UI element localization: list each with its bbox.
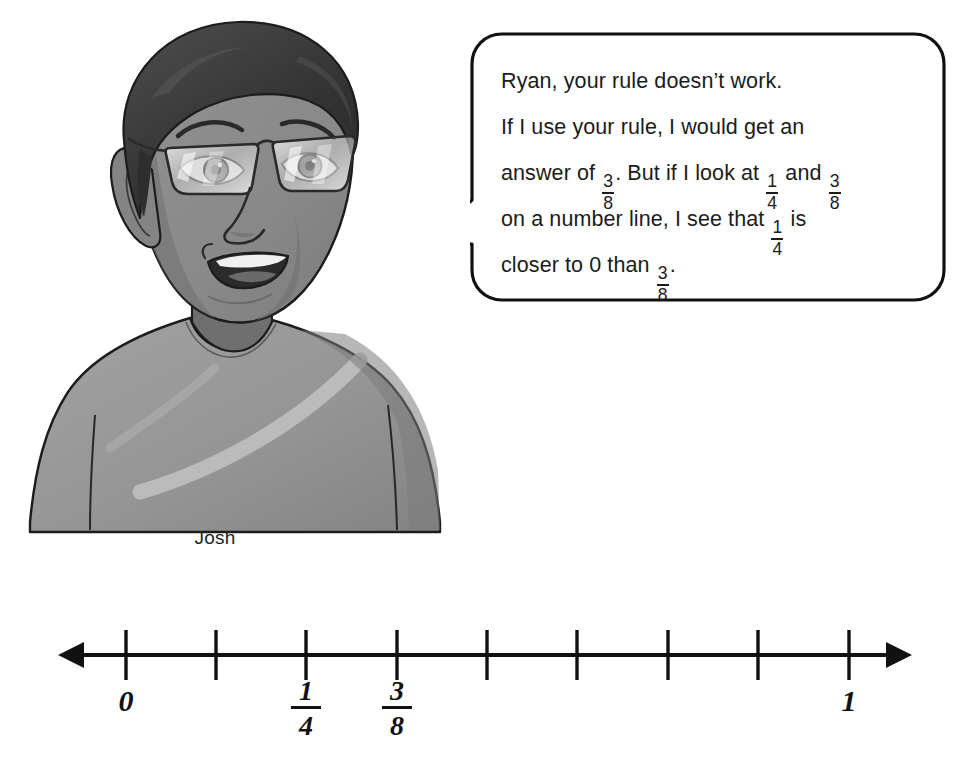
arrow-left	[58, 642, 84, 668]
speech-text-run: is	[784, 207, 806, 231]
number-line-fraction-1-over-4: 14	[291, 676, 321, 740]
number-line-fraction-3-over-8: 38	[382, 676, 412, 740]
speech-bubble: Ryan, your rule doesn’t work.If I use yo…	[470, 32, 946, 302]
character-name-label: Josh	[150, 527, 280, 549]
speech-text-run: and	[779, 161, 827, 185]
speech-text-run: closer to 0 than	[501, 253, 656, 277]
fraction-bar	[291, 706, 321, 708]
speech-text-run: Ryan, your rule doesn’t work.	[501, 69, 782, 93]
fraction-numerator: 3	[602, 173, 614, 192]
fraction-denominator: 4	[299, 711, 313, 740]
number-line-label-0: 0	[119, 684, 134, 718]
speech-text-run: .	[670, 253, 676, 277]
speech-text-run: If I use your rule, I would get an	[501, 115, 804, 139]
fraction-numerator: 3	[657, 265, 669, 284]
josh-portrait-svg	[0, 0, 470, 540]
fraction-denominator: 8	[657, 286, 669, 305]
fraction-numerator: 1	[299, 676, 313, 705]
speech-text-run: on a number line, I see that	[501, 207, 770, 231]
fraction-3-over-8: 38	[829, 173, 841, 213]
fraction-denominator: 8	[390, 711, 404, 740]
speech-bubble-text: Ryan, your rule doesn’t work.If I use yo…	[501, 58, 925, 288]
speech-text-run: . But if I look at	[615, 161, 765, 185]
speech-line-2: If I use your rule, I would get an	[501, 104, 925, 150]
fraction-numerator: 3	[829, 173, 841, 192]
arrow-right	[886, 642, 912, 668]
number-line-axis	[0, 600, 964, 730]
fraction-denominator: 4	[771, 240, 783, 259]
head	[111, 22, 358, 323]
speech-line-3: answer of 38. But if I look at 14 and 38	[501, 150, 925, 196]
number-line-label-1: 1	[842, 684, 857, 718]
fraction-numerator: 3	[390, 676, 404, 705]
speech-text-run: answer of	[501, 161, 601, 185]
fraction-numerator: 1	[766, 173, 778, 192]
fraction-numerator: 1	[771, 219, 783, 238]
number-line: 014381	[0, 600, 964, 783]
fraction-bar	[382, 706, 412, 708]
speech-line-1: Ryan, your rule doesn’t work.	[501, 58, 925, 104]
character-illustration	[0, 0, 470, 540]
fraction-1-over-4: 14	[771, 219, 783, 259]
fraction-denominator: 8	[829, 194, 841, 213]
fraction-3-over-8: 38	[657, 265, 669, 305]
speech-line-5: closer to 0 than 38.	[501, 242, 925, 288]
speech-line-4: on a number line, I see that 14 is	[501, 196, 925, 242]
